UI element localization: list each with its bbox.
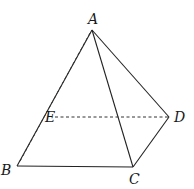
edge-AC bbox=[92, 30, 133, 167]
vertex-label-d: D bbox=[173, 109, 185, 125]
pyramid-diagram: A B C D E bbox=[0, 0, 194, 189]
vertex-label-a: A bbox=[86, 11, 98, 27]
vertex-label-c: C bbox=[129, 171, 140, 187]
edge-BC bbox=[17, 166, 133, 167]
edge-CD bbox=[133, 117, 169, 167]
vertex-label-b: B bbox=[0, 162, 11, 178]
vertex-label-e: E bbox=[44, 109, 55, 125]
edge-AD bbox=[92, 30, 169, 117]
